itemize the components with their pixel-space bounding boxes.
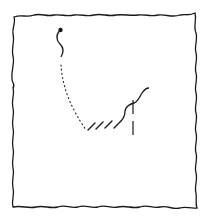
wavy-curve [121,88,149,121]
diagram-canvas [0,0,211,222]
dotted-path [61,65,86,130]
wavy-frame [12,13,197,208]
hatch-marks [88,121,121,130]
top-squiggle [57,30,63,57]
